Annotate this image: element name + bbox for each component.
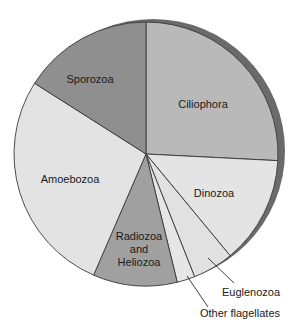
label-sporozoa: Sporozoa [66,73,114,85]
label-dinozoa: Dinozoa [194,187,235,199]
leader-line-other-flagellates [187,276,208,307]
label-euglenozoa: Euglenozoa [222,286,281,298]
label-other-flagellates: Other flagellates [200,307,281,319]
pie-chart: CiliophoraDinozoaEuglenozoaOther flagell… [0,0,294,329]
slice-ciliophora [146,22,278,161]
label-ciliophora: Ciliophora [178,98,228,110]
label-amoebozoa: Amoebozoa [41,173,101,185]
